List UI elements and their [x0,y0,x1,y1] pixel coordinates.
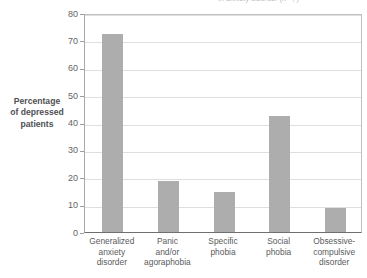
y-tick-mark [80,69,84,70]
x-axis-label-line: agoraphobia [127,257,207,268]
y-tick-label: 40 [54,119,78,128]
y-axis-title-line-2: of depressed [2,107,72,118]
y-tick-mark [80,178,84,179]
y-tick-mark [80,124,84,125]
y-tick-mark [80,41,84,42]
x-axis-label: Obsessive-compulsivedisorder [294,236,367,268]
y-tick-label: 80 [54,10,78,19]
x-axis-labels: GeneralizedanxietydisorderPanicand/orago… [84,236,362,276]
y-tick-label: 10 [54,201,78,210]
x-axis-label-line: disorder [294,257,367,268]
y-axis-ticks: 01020304050607080 [84,14,362,233]
chart-title: in anxiety disorder (n= , ) [150,0,367,3]
y-tick-label: 50 [54,92,78,101]
y-tick-mark [80,96,84,97]
y-tick-label: 30 [54,146,78,155]
chart-figure: in anxiety disorder (n= , ) Percentage o… [0,0,367,278]
y-tick-mark [80,206,84,207]
y-tick-label: 70 [54,37,78,46]
x-axis-label-line: compulsive [294,247,367,258]
y-tick-label: 60 [54,64,78,73]
y-tick-mark [80,14,84,15]
y-tick-mark [80,151,84,152]
y-tick-mark [80,233,84,234]
x-axis-label-line: Obsessive- [294,236,367,247]
y-tick-label: 20 [54,174,78,183]
